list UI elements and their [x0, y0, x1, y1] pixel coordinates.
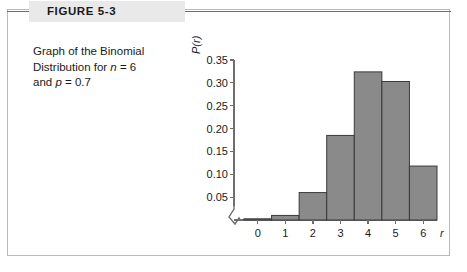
x-tick-label: 3: [331, 227, 351, 239]
bar: [382, 81, 410, 220]
header-rule-right: [185, 11, 451, 12]
figure-caption: Graph of the Binomial Distribution for n…: [33, 44, 178, 91]
caption-line-3-prefix: and: [33, 76, 55, 88]
bar: [409, 166, 437, 220]
bar: [299, 193, 327, 220]
axis-break-symbol: [229, 206, 240, 224]
x-axis-label: r: [440, 227, 444, 239]
chart-svg: [194, 32, 444, 247]
y-tick-label: 0.30: [194, 77, 228, 89]
bar: [327, 135, 355, 220]
x-tick-label: 4: [358, 227, 378, 239]
x-tick-label: 6: [413, 227, 433, 239]
x-tick-label: 0: [248, 227, 268, 239]
caption-line-2-suffix: = 6: [117, 61, 137, 73]
x-tick-label: 5: [386, 227, 406, 239]
caption-line-3-suffix: = 0.7: [62, 76, 91, 88]
y-tick-label: 0.15: [194, 145, 228, 157]
figure-number-label: FIGURE 5-3: [29, 1, 185, 22]
caption-line-2-prefix: Distribution for: [33, 61, 110, 73]
plot-area: [194, 32, 444, 247]
x-tick-label: 1: [275, 227, 295, 239]
y-tick-label: 0.05: [194, 191, 228, 203]
binomial-distribution-chart: P(r) 0.050.100.150.200.250.300.350123456…: [194, 32, 444, 247]
x-tick-label: 2: [303, 227, 323, 239]
bar: [272, 215, 300, 220]
y-tick-label: 0.10: [194, 168, 228, 180]
bar: [354, 72, 382, 220]
y-tick-label: 0.20: [194, 123, 228, 135]
figure-box: FIGURE 5-3 Graph of the Binomial Distrib…: [7, 9, 450, 256]
y-tick-label: 0.25: [194, 100, 228, 112]
bar: [244, 219, 272, 220]
figure-header: FIGURE 5-3: [7, 1, 452, 23]
y-tick-label: 0.35: [194, 54, 228, 66]
header-rule-left: [7, 11, 29, 12]
caption-line-1: Graph of the Binomial: [33, 45, 144, 57]
